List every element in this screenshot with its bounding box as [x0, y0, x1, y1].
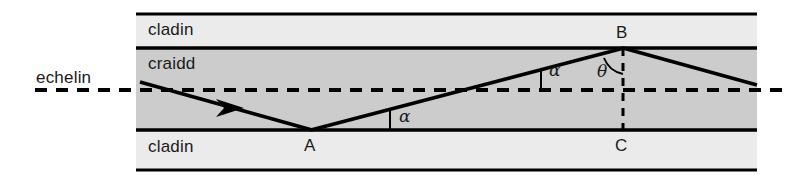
diagram-canvas: echelin cladin craidd cladin A B C α α θ	[0, 0, 786, 184]
angle-label-alpha-at-a: α	[399, 108, 410, 125]
point-label-b: B	[616, 24, 627, 41]
angle-label-alpha-on-axis: α	[549, 62, 560, 79]
point-label-a: A	[304, 137, 315, 154]
angle-label-theta-at-b: θ	[597, 63, 607, 80]
layer-label-cladding-top: cladin	[148, 21, 194, 38]
cladding-top-band	[136, 14, 757, 48]
axis-label-echelin: echelin	[36, 69, 91, 86]
point-label-c: C	[615, 137, 627, 154]
layer-label-cladding-bottom: cladin	[148, 138, 194, 155]
layer-label-core: craidd	[148, 55, 196, 72]
fibre-optic-ray-diagram-svg	[0, 0, 786, 184]
cladding-bottom-band	[136, 130, 757, 170]
